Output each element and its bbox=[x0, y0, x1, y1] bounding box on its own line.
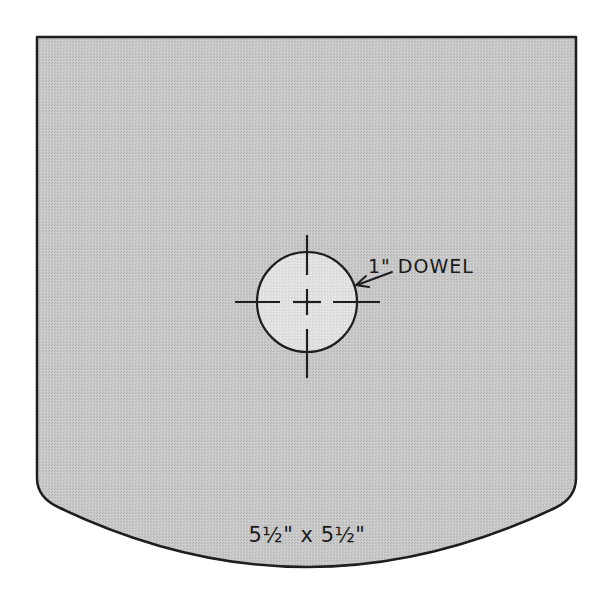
diagram-canvas: 1" DOWEL 5½" x 5½" bbox=[0, 0, 607, 599]
dowel-label: 1" DOWEL bbox=[368, 255, 474, 277]
dimension-label: 5½" x 5½" bbox=[248, 523, 365, 547]
